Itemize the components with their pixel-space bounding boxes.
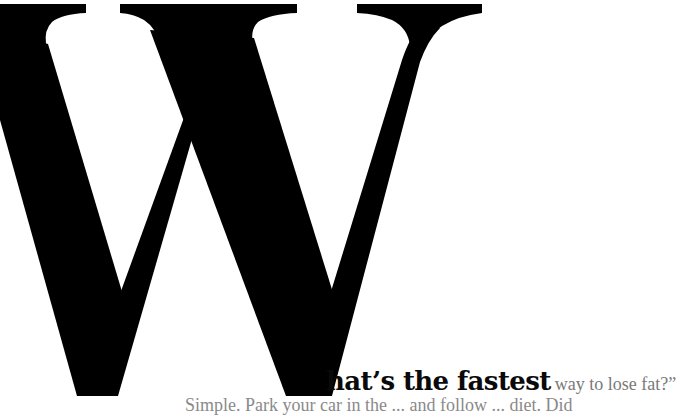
body-text-first-line: Simple. Park your car in the ... and fol… bbox=[185, 395, 572, 415]
headline-bold-text: hat’s the fastest bbox=[326, 366, 551, 396]
headline-light-text: way to lose fat?” bbox=[555, 374, 676, 394]
dropcap-letter-w bbox=[0, 0, 490, 406]
